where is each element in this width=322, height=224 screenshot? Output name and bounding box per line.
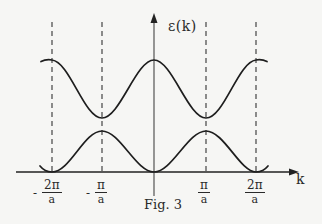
energy-axis-label: ε(k) bbox=[168, 19, 197, 33]
fraction: 2π a bbox=[42, 178, 62, 207]
fraction: π a bbox=[198, 178, 210, 207]
tick-sign: - bbox=[86, 186, 90, 200]
tick-denominator: a bbox=[42, 193, 62, 207]
tick-label-neg-pi-over-a: - π a bbox=[95, 178, 107, 207]
tick-sign: - bbox=[33, 186, 37, 200]
tick-label-2pi-over-a: 2π a bbox=[245, 178, 265, 207]
tick-denominator: a bbox=[95, 193, 107, 207]
tick-label-neg-2pi-over-a: - 2π a bbox=[42, 178, 62, 207]
tick-numerator: 2π bbox=[42, 178, 62, 193]
figure-caption: Fig. 3 bbox=[144, 198, 182, 211]
tick-numerator: π bbox=[95, 178, 107, 193]
tick-denominator: a bbox=[198, 193, 210, 207]
tick-denominator: a bbox=[245, 193, 265, 207]
tick-numerator: 2π bbox=[245, 178, 265, 193]
k-axis-label: k bbox=[296, 172, 304, 186]
tick-numerator: π bbox=[198, 178, 210, 193]
energy-axis-arrow-icon bbox=[151, 13, 158, 23]
fraction: π a bbox=[95, 178, 107, 207]
tick-label-pi-over-a: π a bbox=[198, 178, 210, 207]
fraction: 2π a bbox=[245, 178, 265, 207]
